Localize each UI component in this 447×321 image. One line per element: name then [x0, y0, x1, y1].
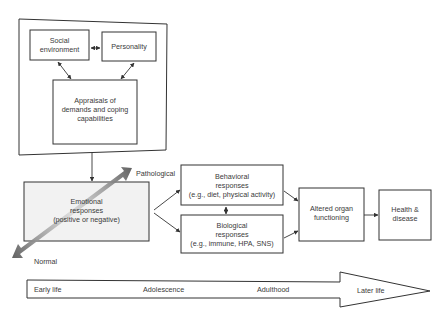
timeline-arrow: Early life Adolescence Adulthood Later l… [27, 272, 430, 307]
node-social-environment: Social environment [30, 30, 89, 60]
node-text: (e.g., diet, physical activity) [189, 190, 275, 199]
node-text: Appraisals of [74, 96, 116, 105]
node-text: functioning [314, 213, 349, 222]
node-health: Health & disease [379, 190, 431, 240]
node-personality: Personality [102, 32, 156, 61]
node-text: Health & [391, 205, 419, 214]
node-text: (e.g., immune, HPA, SNS) [190, 239, 273, 248]
node-text: Biological [217, 221, 248, 230]
timeline-stage: Early life [34, 285, 62, 294]
node-appraisals: Appraisals of demands and coping capabil… [53, 80, 137, 144]
node-text: environment [40, 45, 80, 54]
diagram-canvas: Social environment Personality Appraisal… [0, 0, 447, 321]
node-text: responses [215, 230, 249, 239]
node-text: responses [215, 181, 249, 190]
edge-behavioral-organ [284, 191, 298, 201]
node-text: Social [50, 36, 70, 45]
node-text: Behavioral [215, 172, 249, 181]
node-text: Altered organ [310, 204, 353, 213]
node-text: responses [70, 206, 104, 215]
edge-emotional-behavioral [154, 190, 180, 210]
node-text: disease [393, 214, 418, 223]
edge-biological-organ [284, 231, 298, 238]
node-text: demands and coping [62, 105, 129, 114]
edge-emotional-biological [154, 213, 180, 232]
timeline-stage: Later life [357, 286, 385, 295]
node-altered-organ: Altered organ functioning [299, 188, 364, 241]
node-biological: Biological responses (e.g., immune, HPA,… [181, 215, 283, 253]
node-text: Emotional [71, 197, 103, 206]
node-text: capabilities [77, 114, 113, 123]
timeline-stage: Adolescence [143, 285, 184, 294]
node-text: Personality [111, 42, 147, 51]
timeline-stage: Adulthood [257, 285, 289, 294]
node-behavioral: Behavioral responses (e.g., diet, physic… [181, 165, 283, 205]
spectrum-label-normal: Normal [34, 257, 58, 266]
spectrum-label-pathological: Pathological [136, 169, 176, 178]
node-text: (positive or negative) [53, 215, 120, 224]
